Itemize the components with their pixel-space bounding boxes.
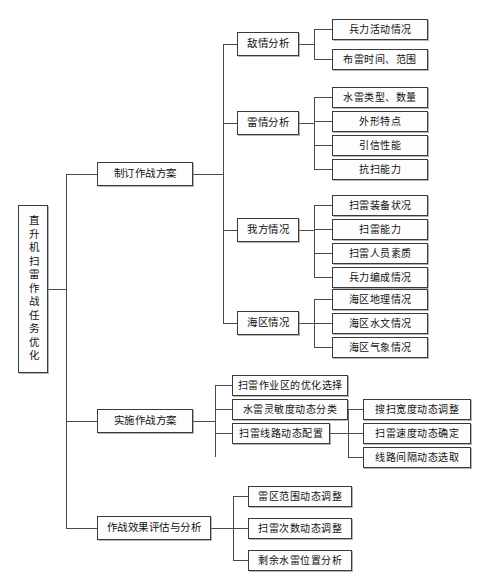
node-sweep-area-selection[interactable]: 扫雷作业区的优化选择 [232,375,348,396]
node-own-situation[interactable]: 我方情况 [237,218,299,242]
connector-to-plan [66,174,97,175]
connector-plan-spine [223,44,224,323]
node-execute-operation[interactable]: 实施作战方案 [97,409,193,433]
connector-level2-spine [66,174,67,528]
node-sweep-area-selection-label: 扫雷作业区的优化选择 [238,380,343,391]
connector-execute-out [193,421,215,422]
node-mine-leaf-1-label: 外形特点 [359,116,401,127]
node-residual-mine-position-analysis-label: 剩余水雷位置分析 [258,555,342,566]
node-sweep-route-configuration[interactable]: 扫雷线路动态配置 [232,423,330,444]
node-own-leaf-2-label: 扫雷人员素质 [349,248,412,259]
node-plan-operation-label: 制订作战方案 [114,168,177,180]
node-sea-situation[interactable]: 海区情况 [237,311,299,335]
connector-plan-enemy [223,44,237,45]
connector-execute-child-2 [215,433,232,434]
node-enemy-analysis[interactable]: 敌情分析 [237,32,299,56]
connector-mine-spine [314,97,315,169]
connector-plan-sea [223,323,237,324]
connector-assess-out [211,528,233,529]
connector-assess-child-2 [233,560,248,561]
node-sweep-count-adjust-label: 扫雷次数动态调整 [258,523,342,534]
connector-execute-child-0 [215,385,232,386]
node-mine-leaf-3-label: 抗扫能力 [359,164,401,175]
connector-route-out [330,433,348,434]
node-route-leaf-0[interactable]: 搜扫宽度动态调整 [363,399,471,420]
node-own-leaf-3-label: 兵力编成情况 [349,272,412,283]
node-assess-operation[interactable]: 作战效果评估与分析 [97,516,211,540]
connector-own-leaf-3 [314,277,332,278]
node-sweep-count-adjust[interactable]: 扫雷次数动态调整 [248,518,352,539]
node-mine-leaf-2-label: 引信性能 [359,140,401,151]
node-route-leaf-2-label: 线路间隔动态选取 [375,452,459,463]
node-route-leaf-1[interactable]: 扫雷速度动态确定 [363,423,471,444]
connector-own-out [299,230,314,231]
node-root-label: 直升机扫雷作战任务优化 [27,215,39,364]
node-root[interactable]: 直升机扫雷作战任务优化 [18,205,48,373]
node-mine-leaf-3[interactable]: 抗扫能力 [332,159,428,180]
connector-assess-child-1 [233,528,248,529]
connector-execute-child-1 [215,409,232,410]
node-enemy-leaf-0-label: 兵力活动情况 [349,24,412,35]
node-enemy-leaf-0[interactable]: 兵力活动情况 [332,19,428,40]
node-minefield-range-adjust-label: 雷区范围动态调整 [258,491,342,502]
node-route-leaf-2[interactable]: 线路间隔动态选取 [363,447,471,468]
connector-to-execute [66,421,97,422]
connector-sea-out [299,323,314,324]
connector-own-leaf-0 [314,205,332,206]
connector-assess-child-0 [233,496,248,497]
node-mine-leaf-1[interactable]: 外形特点 [332,111,428,132]
connector-mine-leaf-3 [314,169,332,170]
connector-own-leaf-2 [314,253,332,254]
node-enemy-analysis-label: 敌情分析 [247,38,289,50]
node-sea-leaf-1[interactable]: 海区水文情况 [332,313,428,334]
node-sea-leaf-2[interactable]: 海区气象情况 [332,337,428,358]
node-own-leaf-0-label: 扫雷装备状况 [349,200,412,211]
node-minefield-range-adjust[interactable]: 雷区范围动态调整 [248,486,352,507]
node-route-leaf-1-label: 扫雷速度动态确定 [375,428,459,439]
connector-sea-leaf-0 [314,299,332,300]
node-mine-analysis[interactable]: 雷情分析 [237,111,299,135]
connector-enemy-leaf-0 [314,29,332,30]
connector-mine-out [299,123,314,124]
node-sea-leaf-1-label: 海区水文情况 [349,318,412,329]
node-residual-mine-position-analysis[interactable]: 剩余水雷位置分析 [248,550,352,571]
node-sweep-route-configuration-label: 扫雷线路动态配置 [239,428,323,439]
node-mine-leaf-0[interactable]: 水雷类型、数量 [332,87,428,108]
node-assess-operation-label: 作战效果评估与分析 [107,522,202,534]
connector-to-assess [66,528,97,529]
node-own-situation-label: 我方情况 [247,224,289,236]
node-mine-analysis-label: 雷情分析 [247,117,289,129]
node-sea-situation-label: 海区情况 [247,317,289,329]
node-sea-leaf-0[interactable]: 海区地理情况 [332,289,428,310]
connector-own-leaf-1 [314,229,332,230]
node-own-leaf-0[interactable]: 扫雷装备状况 [332,195,428,216]
node-own-leaf-2[interactable]: 扫雷人员素质 [332,243,428,264]
node-enemy-leaf-1[interactable]: 布雷时间、范围 [332,49,428,70]
node-mine-leaf-0-label: 水雷类型、数量 [343,92,417,103]
connector-enemy-out [299,44,314,45]
connector-enemy-spine [314,29,315,59]
connector-mine-leaf-0 [314,97,332,98]
connector-mine-leaf-2 [314,145,332,146]
node-mine-sensitivity-classification-label: 水雷灵敏度动态分类 [243,404,338,415]
connector-plan-own [223,230,237,231]
connector-sea-leaf-2 [314,347,332,348]
node-route-leaf-0-label: 搜扫宽度动态调整 [375,404,459,415]
connector-route-leaf-2 [348,457,363,458]
connector-route-leaf-1 [348,433,363,434]
node-own-leaf-3[interactable]: 兵力编成情况 [332,267,428,288]
node-execute-operation-label: 实施作战方案 [114,415,177,427]
connector-plan-out [193,174,223,175]
connector-execute-spine [215,385,216,457]
node-mine-leaf-2[interactable]: 引信性能 [332,135,428,156]
tree-diagram: 直升机扫雷作战任务优化 制订作战方案 实施作战方案 作战效果评估与分析 敌情分析… [0,0,495,588]
node-plan-operation[interactable]: 制订作战方案 [97,162,193,186]
node-mine-sensitivity-classification[interactable]: 水雷灵敏度动态分类 [232,399,348,420]
connector-enemy-leaf-1 [314,59,332,60]
node-sea-leaf-0-label: 海区地理情况 [349,294,412,305]
node-own-leaf-1-label: 扫雷能力 [359,224,401,235]
node-own-leaf-1[interactable]: 扫雷能力 [332,219,428,240]
node-sea-leaf-2-label: 海区气象情况 [349,342,412,353]
connector-mine-leaf-1 [314,121,332,122]
connector-root-out [48,289,66,290]
